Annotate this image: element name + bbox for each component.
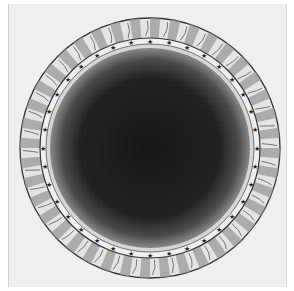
svg-text:★: ★ xyxy=(147,38,153,46)
svg-text:★: ★ xyxy=(110,245,116,253)
svg-text:★: ★ xyxy=(128,250,134,258)
svg-text:★: ★ xyxy=(147,252,153,260)
svg-text:★: ★ xyxy=(252,163,258,171)
svg-text:★: ★ xyxy=(65,76,71,84)
svg-text:★: ★ xyxy=(46,181,52,189)
svg-text:★: ★ xyxy=(94,237,100,245)
celestial-engraving: ★★★★★★★★★★★★★★★★★★★★★★★★★★★★★★★★★★★★ xyxy=(0,0,294,291)
svg-text:★: ★ xyxy=(229,76,235,84)
svg-text:★: ★ xyxy=(54,91,60,99)
svg-text:★: ★ xyxy=(110,44,116,52)
svg-text:★: ★ xyxy=(254,145,260,153)
svg-text:★: ★ xyxy=(201,237,207,245)
svg-text:★: ★ xyxy=(94,52,100,60)
svg-text:★: ★ xyxy=(78,63,84,71)
svg-text:★: ★ xyxy=(201,52,207,60)
svg-text:★: ★ xyxy=(54,198,60,206)
svg-text:★: ★ xyxy=(216,63,222,71)
svg-text:★: ★ xyxy=(65,213,71,221)
svg-text:★: ★ xyxy=(42,126,48,134)
svg-text:★: ★ xyxy=(42,163,48,171)
svg-text:★: ★ xyxy=(184,245,190,253)
svg-text:★: ★ xyxy=(40,145,46,153)
svg-text:★: ★ xyxy=(252,126,258,134)
svg-text:★: ★ xyxy=(248,108,254,116)
svg-text:★: ★ xyxy=(240,198,246,206)
svg-text:★: ★ xyxy=(78,226,84,234)
svg-text:★: ★ xyxy=(184,44,190,52)
svg-text:★: ★ xyxy=(248,181,254,189)
svg-text:★: ★ xyxy=(128,39,134,47)
svg-text:★: ★ xyxy=(166,250,172,258)
svg-text:★: ★ xyxy=(46,108,52,116)
svg-text:★: ★ xyxy=(229,213,235,221)
svg-text:★: ★ xyxy=(216,226,222,234)
svg-text:★: ★ xyxy=(240,91,246,99)
svg-text:★: ★ xyxy=(166,39,172,47)
